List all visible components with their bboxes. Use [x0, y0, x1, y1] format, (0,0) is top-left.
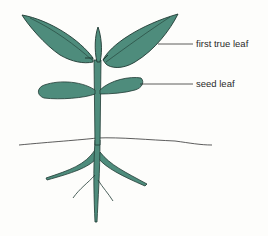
- seedling-diagram: first true leaf seed leaf: [0, 0, 268, 236]
- first-true-leaves: [22, 14, 178, 68]
- label-first-true-leaf: first true leaf: [196, 38, 248, 49]
- label-seed-leaf: seed leaf: [196, 78, 235, 89]
- roots: [46, 140, 147, 222]
- soil-line: [19, 138, 212, 145]
- stem: [94, 60, 101, 145]
- seedling-illustration: [0, 0, 268, 236]
- seed-leaves: [38, 78, 142, 99]
